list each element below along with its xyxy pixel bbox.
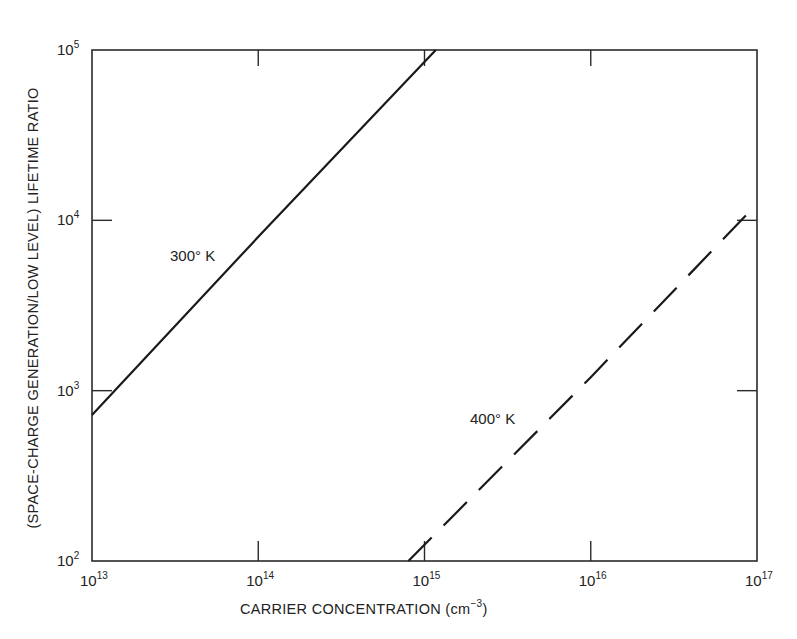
axis-ticks (92, 50, 757, 561)
x-tick-label: 1017 (745, 570, 773, 589)
series-line-300k (92, 50, 436, 415)
y-tick-label: 104 (57, 209, 80, 228)
series-line-400k (408, 204, 757, 561)
x-tick-label: 1013 (80, 570, 108, 589)
series-lines (92, 50, 757, 561)
x-tick-label: 1016 (579, 570, 607, 589)
y-tick-label: 102 (57, 550, 80, 569)
series-label-300k: 300° K (170, 247, 215, 264)
series-label-400k: 400° K (470, 410, 515, 427)
y-axis-title: (SPACE-CHARGE GENERATION/LOW LEVEL) LIFE… (25, 87, 41, 528)
chart-canvas: 10131014101510161017 102103104105 300° K… (0, 0, 797, 639)
x-tick-labels: 10131014101510161017 (80, 570, 773, 589)
x-tick-label: 1014 (246, 570, 274, 589)
x-tick-label: 1015 (413, 570, 441, 589)
y-tick-label: 105 (57, 39, 80, 58)
plot-border (92, 50, 757, 561)
plot-frame (92, 50, 757, 561)
x-axis-title: CARRIER CONCENTRATION (cm−3) (240, 598, 488, 617)
y-tick-labels: 102103104105 (57, 39, 80, 569)
y-tick-label: 103 (57, 380, 80, 399)
